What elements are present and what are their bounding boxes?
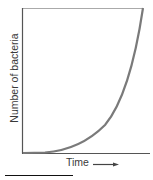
arrow-head-icon xyxy=(113,163,119,167)
x-axis-label: Time xyxy=(66,156,89,168)
y-axis-label: Number of bacteria xyxy=(8,33,20,122)
growth-curve xyxy=(23,8,143,153)
chart-canvas xyxy=(0,0,153,180)
